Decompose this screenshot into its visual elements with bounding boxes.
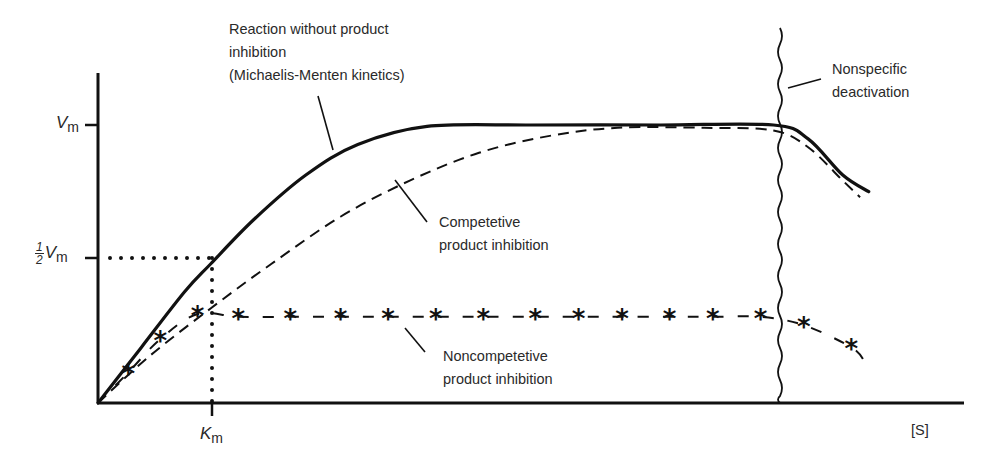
half-fraction: 12: [35, 241, 44, 266]
km-label-sub: m: [211, 430, 223, 446]
half-vm-label: 12Vm: [35, 241, 68, 266]
asterisk-marker: *: [706, 304, 720, 334]
km-label-main: K: [200, 424, 211, 443]
x-axis-label: [S]: [911, 422, 929, 438]
asterisk-marker: *: [283, 304, 297, 334]
comp-annotation-line1: Competetive: [439, 211, 549, 234]
asterisk-marker: *: [477, 304, 491, 334]
asterisk-marker: *: [845, 334, 859, 364]
noncomp-annotation: Noncompetetive product inhibition: [443, 345, 553, 391]
deact-annotation-line1: Nonspecific: [832, 58, 909, 81]
asterisk-marker: *: [572, 304, 586, 334]
vm-label: Vm: [56, 113, 79, 135]
nonspecific-deactivation-line: [778, 28, 782, 403]
mm-annotation-line2: inhibition: [229, 41, 405, 64]
comp-leader: [395, 180, 427, 222]
km-label: Km: [200, 424, 223, 446]
mm-leader: [318, 96, 333, 150]
noncomp-annotation-line2: product inhibition: [443, 368, 553, 391]
asterisk-marker: *: [529, 304, 543, 334]
asterisk-marker: *: [429, 304, 443, 334]
vm-label-main: V: [56, 113, 67, 132]
vm-label-sub: m: [67, 119, 79, 135]
asterisk-marker: *: [754, 304, 768, 334]
noncomp-leader: [405, 328, 425, 352]
asterisk-marker: *: [231, 304, 245, 334]
noncomp-annotation-line1: Noncompetetive: [443, 345, 553, 368]
mm-annotation-line3: (Michaelis-Menten kinetics): [229, 64, 405, 87]
asterisk-marker: *: [154, 326, 168, 356]
asterisk-marker: *: [663, 304, 677, 334]
half-vm-main: V: [45, 243, 56, 262]
mm-annotation-line1: Reaction without product: [229, 18, 405, 41]
asterisk-marker: *: [334, 304, 348, 334]
asterisk-marker: *: [797, 312, 811, 342]
deact-annotation-line2: deactivation: [832, 81, 909, 104]
deact-leader: [788, 79, 821, 88]
asterisk-marker: *: [381, 304, 395, 334]
mm-annotation: Reaction without product inhibition (Mic…: [229, 18, 405, 87]
asterisk-marker: *: [122, 359, 136, 389]
asterisk-marker: *: [191, 301, 205, 331]
comp-annotation-line2: product inhibition: [439, 234, 549, 257]
half-vm-sub: m: [56, 249, 68, 265]
comp-annotation: Competetive product inhibition: [439, 211, 549, 257]
asterisk-marker: *: [615, 304, 629, 334]
deact-annotation: Nonspecific deactivation: [832, 58, 909, 104]
